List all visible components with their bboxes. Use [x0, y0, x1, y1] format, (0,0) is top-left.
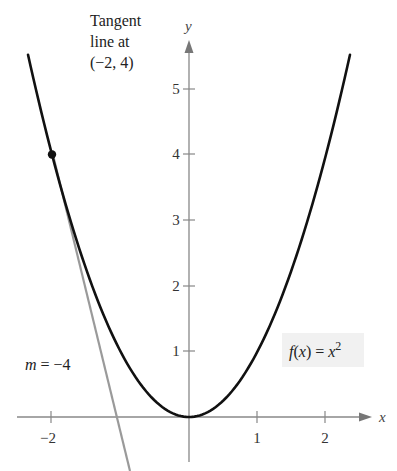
- tangent-point-marker: [48, 150, 56, 158]
- tangent-annotation-line-2: line at: [90, 33, 130, 50]
- slope-annotation: m = −4: [25, 356, 71, 373]
- function-exponent: 2: [335, 339, 341, 353]
- tangent-annotation-line-3: (−2, 4): [90, 54, 134, 72]
- y-tick-label-3: 3: [172, 212, 180, 228]
- y-axis-arrow-icon: [185, 40, 194, 53]
- x-tick-label-2: 2: [321, 430, 329, 446]
- parabola-tangent-chart: −2 1 2 x 5 4 3 2 1 y Tangent line at (−2…: [0, 0, 397, 471]
- x-axis-label: x: [378, 409, 386, 425]
- tangent-annotation-line-1: Tangent: [90, 12, 142, 30]
- slope-value: = −4: [37, 356, 71, 373]
- x-tick-label-minus-2: −2: [40, 430, 56, 446]
- function-base: x: [327, 343, 335, 360]
- y-axis-label: y: [183, 18, 192, 34]
- slope-variable: m: [25, 356, 37, 373]
- function-argument: x: [298, 343, 306, 360]
- x-tick-label-1: 1: [253, 430, 261, 446]
- x-axis-arrow-icon: [359, 413, 372, 422]
- y-tick-label-4: 4: [172, 146, 180, 162]
- y-tick-label-2: 2: [172, 278, 180, 294]
- function-label: f(x) = x2: [289, 339, 341, 361]
- function-equals: ) =: [306, 343, 328, 361]
- y-axis: 5 4 3 2 1 y: [172, 18, 195, 462]
- y-tick-label-1: 1: [172, 343, 180, 359]
- y-tick-label-5: 5: [172, 81, 180, 97]
